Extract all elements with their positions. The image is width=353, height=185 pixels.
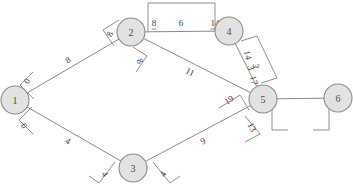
edge-weight-3-5: 9 xyxy=(199,135,208,146)
node-label-3: 3 xyxy=(131,163,136,174)
graph-edge-1-3 xyxy=(27,107,121,161)
bracket-label-node3-left-0: 4 xyxy=(100,169,111,179)
bracket-label-node3-right-0: 4 xyxy=(158,169,169,179)
graph-edge-1-2 xyxy=(27,39,119,93)
graph-edge-2-5 xyxy=(143,38,250,92)
graph-edge-3-5 xyxy=(145,106,250,162)
bracket-label-edge24-top-0: 8 xyxy=(152,18,157,28)
node-label-4: 4 xyxy=(227,26,232,37)
bracket-label-edge45-side-2: 17 xyxy=(248,75,260,87)
brackets-layer xyxy=(19,3,329,183)
graph-node-4[interactable]: 4 xyxy=(215,17,243,45)
graph-node-6[interactable]: 6 xyxy=(324,84,352,112)
graph-node-2[interactable]: 2 xyxy=(117,18,145,46)
node-label-2: 2 xyxy=(129,27,134,38)
graph-node-5[interactable]: 5 xyxy=(249,85,277,113)
graph-edge-5-6 xyxy=(277,98,324,99)
edges-layer xyxy=(27,31,324,161)
bracket-edge56-below xyxy=(272,108,329,130)
node-label-5: 5 xyxy=(261,94,266,105)
node-label-1: 1 xyxy=(13,95,18,106)
graph-node-3[interactable]: 3 xyxy=(119,154,147,182)
bracket-label-node2-left-0: 8 xyxy=(105,29,116,38)
bracket-label-edge45-side-1: 3 xyxy=(246,64,257,71)
edge-weight-1-3: 4 xyxy=(64,136,73,147)
bracket-label-edge45-side-0: 14 xyxy=(242,49,254,61)
bracket-label-edge35-near5-0: 13 xyxy=(245,121,258,134)
graph-diagram-canvas: 8611493 008881414317191344 123456 xyxy=(0,0,353,185)
edge-weight-2-4: 6 xyxy=(179,18,184,28)
nodes-layer: 123456 xyxy=(1,17,352,182)
edge-weight-1-2: 8 xyxy=(64,54,73,65)
bracket-label-node2-lower-0: 8 xyxy=(135,57,146,66)
graph-edge-2-4 xyxy=(145,31,215,32)
graph-svg: 8611493 008881414317191344 123456 xyxy=(0,0,353,185)
node-label-6: 6 xyxy=(336,93,341,104)
edge-weight-2-5: 11 xyxy=(184,66,196,79)
graph-node-1[interactable]: 1 xyxy=(1,86,29,114)
